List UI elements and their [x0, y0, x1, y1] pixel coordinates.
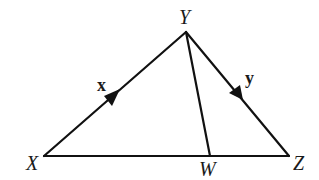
vector-label-x: x — [97, 75, 106, 95]
point-label-z: Z — [293, 152, 305, 174]
point-label-y: Y — [179, 6, 192, 28]
vector-label-y: y — [245, 68, 254, 88]
point-label-w: W — [199, 158, 218, 180]
triangle-diagram: X Y W Z x y — [0, 0, 319, 180]
point-label-x: X — [25, 152, 39, 174]
arrow-x-icon — [104, 89, 120, 106]
segment-yw — [186, 32, 210, 156]
